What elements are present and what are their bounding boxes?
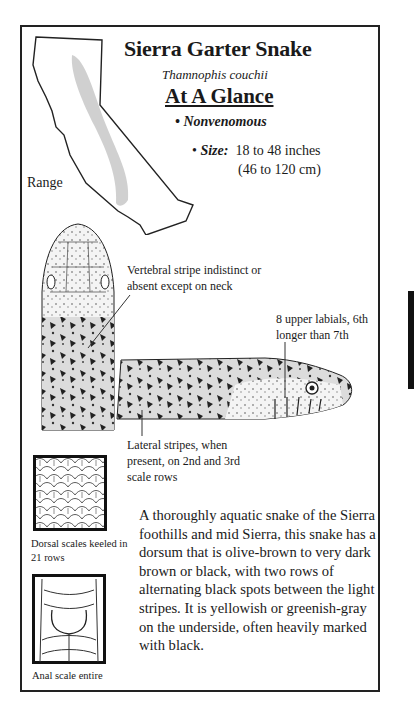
dorsal-scales-figure <box>33 455 107 531</box>
snake-head-side-view-illustration <box>115 355 360 425</box>
vertebral-callout-line <box>85 293 135 353</box>
size-label: Size: <box>200 143 228 158</box>
labials-callout-line <box>283 340 287 400</box>
size-metric: (46 to 120 cm) <box>192 162 321 177</box>
vertebral-stripe-callout: Vertebral stripe indistinct or absent ex… <box>127 262 267 294</box>
size-fact: • Size: 18 to 48 inches (46 to 120 cm) <box>192 141 321 179</box>
page-thumb-tab <box>408 291 414 389</box>
page-title: Sierra Garter Snake <box>124 36 312 62</box>
dorsal-scales-caption: Dorsal scales keeled in 21 rows <box>31 537 131 565</box>
section-heading: At A Glance <box>165 84 274 109</box>
venom-status-text: Nonvenomous <box>183 114 266 129</box>
lateral-callout-line <box>140 408 144 438</box>
size-imperial: 18 to 48 inches <box>235 143 320 158</box>
anal-scale-figure <box>32 574 106 664</box>
anal-scale-caption: Anal scale entire <box>32 670 103 681</box>
range-label: Range <box>27 175 63 191</box>
upper-labials-callout: 8 upper labials, 6th longer than 7th <box>276 311 381 343</box>
species-description: A thoroughly aquatic snake of the Sierra… <box>139 506 379 655</box>
venom-status: • Nonvenomous <box>175 114 267 130</box>
scientific-name: Thamnophis couchii <box>162 67 268 83</box>
california-range-map <box>28 35 198 235</box>
lateral-stripes-callout: Lateral stripes, when present, on 2nd an… <box>127 437 257 485</box>
